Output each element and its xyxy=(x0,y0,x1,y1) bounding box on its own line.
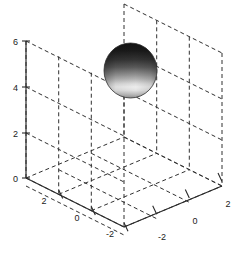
plot-figure: 6 4 2 0 2 0 -2 -2 0 2 xyxy=(0,0,250,258)
z-tick-label-0: 0 xyxy=(13,174,18,184)
z-axis-tick-labels: 6 4 2 0 xyxy=(13,37,18,184)
x-tick-label-0: 0 xyxy=(192,216,197,226)
x-tick-label-neg2: -2 xyxy=(158,232,166,242)
plot-canvas: 6 4 2 0 2 0 -2 -2 0 2 xyxy=(0,0,250,258)
sphere-object xyxy=(104,43,157,98)
z-tick-label-2: 2 xyxy=(13,129,18,139)
y-axis-ticks xyxy=(59,190,128,231)
grid-line-floor-b xyxy=(59,170,157,219)
grid-line-floor-a xyxy=(26,137,124,178)
grid-line-floor-b xyxy=(124,137,222,186)
grid-line-horizontal xyxy=(26,133,124,182)
y-tick-label-0: 0 xyxy=(74,213,79,223)
x-tick-label-2: 2 xyxy=(225,199,230,209)
grid-line-horizontal xyxy=(26,87,124,136)
x-tick-0 xyxy=(185,189,189,198)
y-tick-label-2: 2 xyxy=(41,196,46,206)
x-tick-neg2 xyxy=(153,206,157,215)
y-axis-tick-labels: 2 0 -2 xyxy=(41,196,114,239)
x-axis-ticks xyxy=(153,173,222,214)
x-axis-tick-labels: -2 0 2 xyxy=(158,199,231,242)
grid-line-floor-a xyxy=(91,170,189,211)
grid-line-horizontal xyxy=(124,91,222,140)
x-tick-2 xyxy=(218,173,222,182)
z-tick-label-4: 4 xyxy=(13,83,18,93)
grid-line-floor-b xyxy=(26,186,124,235)
x-axis-line xyxy=(124,186,222,227)
y-tick-label-neg2: -2 xyxy=(106,229,114,239)
grid-line-floor-b xyxy=(91,153,189,202)
z-tick-label-6: 6 xyxy=(13,37,18,47)
